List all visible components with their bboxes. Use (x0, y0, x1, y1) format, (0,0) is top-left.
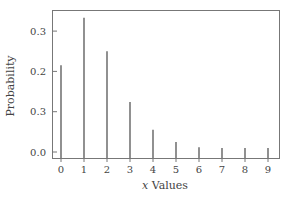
x-tick-label: 5 (173, 164, 179, 175)
y-axis-label: Probability (4, 55, 17, 117)
x-tick-label: 0 (58, 164, 64, 175)
y-tick-label: 0.0 (30, 147, 46, 158)
x-axis-label-text: Values (148, 179, 188, 192)
x-tick-label: 1 (81, 164, 87, 175)
x-axis-ticks: 0123456789 (58, 159, 271, 176)
x-tick-label: 4 (150, 164, 156, 175)
x-tick-label: 7 (219, 164, 225, 175)
stem-series (61, 18, 268, 158)
y-tick-label: 0.2 (30, 66, 46, 77)
x-tick-label: 6 (196, 164, 202, 175)
y-tick-label: 0.3 (30, 106, 46, 117)
plot-frame (53, 11, 280, 159)
x-tick-label: 9 (265, 164, 271, 175)
chart: 0.00.30.20.3 0123456789 Probability x Va… (0, 0, 297, 199)
x-tick-label: 8 (242, 164, 248, 175)
x-tick-label: 3 (127, 164, 133, 175)
x-tick-label: 2 (104, 164, 110, 175)
x-axis-label: x Values (142, 179, 188, 192)
y-tick-label: 0.3 (30, 26, 46, 37)
